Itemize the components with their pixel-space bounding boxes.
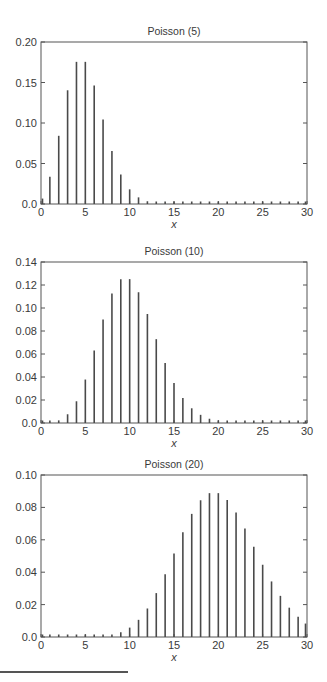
x-tick-label: 10 [124,206,136,218]
x-tick-label: 15 [168,206,180,218]
chart-poisson-5: Poisson (5)0.00.050.100.150.200510152025… [0,0,327,228]
x-tick-label: 20 [212,639,224,651]
y-tick-label: 0.10 [16,302,37,314]
x-tick-label: 15 [168,639,180,651]
y-tick-label: 0.04 [16,566,37,578]
x-tick-label: 5 [82,206,88,218]
y-tick-label: 0.05 [16,158,37,170]
y-tick-label: 0.20 [16,36,37,48]
y-tick-label: 0.02 [16,599,37,611]
x-tick-label: 25 [257,206,269,218]
x-tick-label: 30 [301,425,313,437]
chart-poisson-20: Poisson (20)0.00.020.040.060.080.1005101… [0,452,327,662]
y-tick-label: 0.08 [16,501,37,513]
x-axis-label: x [170,218,177,228]
x-axis-label: x [170,437,177,449]
y-tick-label: 0.12 [16,279,37,291]
y-tick-label: 0.06 [16,348,37,360]
x-tick-label: 10 [124,639,136,651]
x-tick-label: 15 [168,425,180,437]
x-tick-label: 20 [212,206,224,218]
y-tick-label: 0.15 [16,77,37,89]
y-tick-label: 0.0 [22,631,37,643]
x-tick-label: 25 [257,425,269,437]
x-tick-label: 5 [82,639,88,651]
y-tick-label: 0.08 [16,325,37,337]
x-tick-label: 30 [301,639,313,651]
x-tick-label: 10 [124,425,136,437]
chart-svg: Poisson (20)0.00.020.040.060.080.1005101… [0,452,327,662]
y-tick-label: 0.0 [22,417,37,429]
x-tick-label: 20 [212,425,224,437]
plot-frame [41,42,307,204]
chart-title: Poisson (10) [145,245,204,257]
x-tick-label: 0 [38,639,44,651]
chart-svg: Poisson (10)0.00.020.040.060.080.100.120… [0,228,327,456]
x-tick-label: 25 [257,639,269,651]
y-tick-label: 0.10 [16,469,37,481]
chart-poisson-10: Poisson (10)0.00.020.040.060.080.100.120… [0,228,327,456]
y-tick-label: 0.14 [16,256,37,268]
x-tick-label: 30 [301,206,313,218]
y-tick-label: 0.06 [16,534,37,546]
y-tick-label: 0.02 [16,394,37,406]
x-axis-label: x [170,651,177,662]
x-tick-label: 0 [38,206,44,218]
chart-svg: Poisson (5)0.00.050.100.150.200510152025… [0,0,327,228]
y-tick-label: 0.0 [22,198,37,210]
footnote-rule [0,671,128,673]
y-tick-label: 0.04 [16,371,37,383]
x-tick-label: 0 [38,425,44,437]
y-tick-label: 0.10 [16,117,37,129]
chart-title: Poisson (20) [145,458,204,470]
chart-title: Poisson (5) [147,25,200,37]
x-tick-label: 5 [82,425,88,437]
